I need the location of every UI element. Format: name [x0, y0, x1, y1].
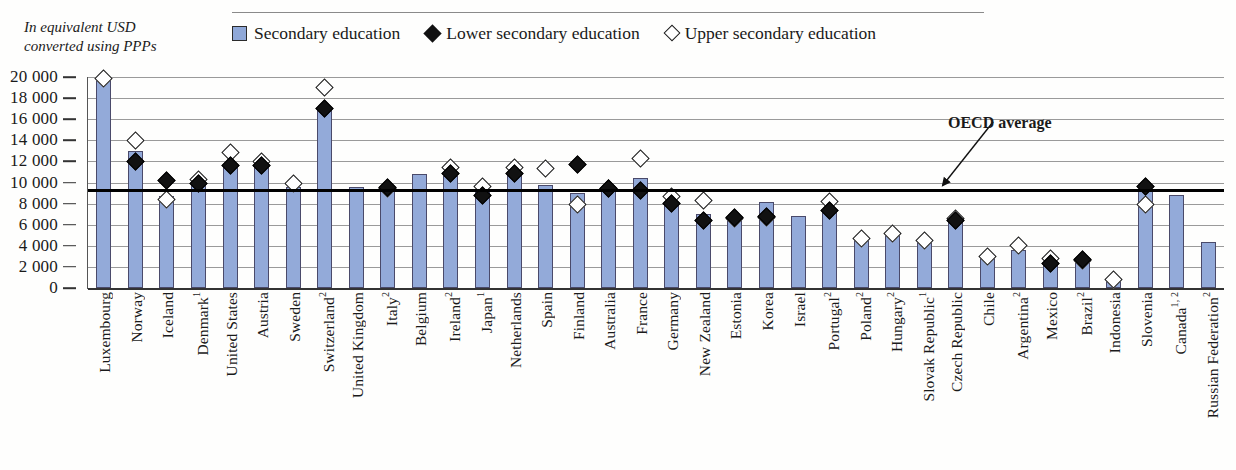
- bar-group[interactable]: [159, 77, 174, 288]
- bar[interactable]: [948, 220, 963, 288]
- bar-group[interactable]: [1106, 77, 1121, 288]
- bar-group[interactable]: [507, 77, 522, 288]
- bar-group[interactable]: [349, 77, 364, 288]
- bar-group[interactable]: [727, 77, 742, 288]
- bar-group[interactable]: [223, 77, 238, 288]
- bar[interactable]: [254, 167, 269, 288]
- open-diamond-icon: [663, 25, 680, 42]
- bar-group[interactable]: [917, 77, 932, 288]
- x-axis-label: Italy2: [380, 292, 395, 326]
- bar-group[interactable]: [664, 77, 679, 288]
- bar[interactable]: [191, 177, 206, 288]
- bar-group[interactable]: [380, 77, 395, 288]
- bar[interactable]: [128, 151, 143, 288]
- upper-secondary-marker[interactable]: [631, 149, 649, 167]
- bar[interactable]: [1011, 250, 1026, 288]
- legend-item-upper-secondary-education[interactable]: Upper secondary education: [666, 23, 876, 44]
- lower-secondary-marker[interactable]: [568, 155, 586, 173]
- y-axis-tick-label: 4 000: [19, 236, 58, 256]
- bar-group[interactable]: [1138, 77, 1153, 288]
- bar-group[interactable]: [254, 77, 269, 288]
- bar[interactable]: [727, 217, 742, 288]
- x-axis-label: Japan1: [475, 292, 490, 333]
- legend-label: Secondary education: [254, 23, 400, 44]
- x-axis-line: [88, 288, 1224, 290]
- bar-group[interactable]: [1201, 77, 1216, 288]
- bar-group[interactable]: [822, 77, 837, 288]
- x-axis-label: Switzerland2: [317, 292, 332, 372]
- bar[interactable]: [601, 191, 616, 288]
- x-axis-label: Belgium: [412, 292, 427, 346]
- bar[interactable]: [349, 187, 364, 288]
- bar-group[interactable]: [1169, 77, 1184, 288]
- bar-group[interactable]: [443, 77, 458, 288]
- x-axis-label: Israel: [791, 292, 806, 327]
- bar-group[interactable]: [1075, 77, 1090, 288]
- bar-group[interactable]: [412, 77, 427, 288]
- x-axis-label: France: [633, 292, 648, 335]
- legend-item-secondary-education[interactable]: Secondary education: [232, 23, 400, 44]
- bar-group[interactable]: [191, 77, 206, 288]
- bar-group[interactable]: [1043, 77, 1058, 288]
- y-axis-tick-mark: [63, 266, 76, 268]
- bar-group[interactable]: [570, 77, 585, 288]
- bar[interactable]: [1169, 195, 1184, 288]
- x-axis-label: Germany: [664, 292, 679, 350]
- x-axis-label: New Zealand: [696, 292, 711, 376]
- y-axis-tick-label: 12 000: [10, 151, 58, 171]
- bar[interactable]: [1201, 242, 1216, 288]
- bar-group[interactable]: [1011, 77, 1026, 288]
- bar[interactable]: [380, 191, 395, 288]
- bar-group[interactable]: [475, 77, 490, 288]
- upper-secondary-marker[interactable]: [694, 191, 712, 209]
- upper-secondary-marker[interactable]: [315, 78, 333, 96]
- axis-unit-note: In equivalent USD converted using PPPs: [24, 18, 174, 56]
- bar-group[interactable]: [885, 77, 900, 288]
- x-axis-label: Slovak Republic1: [917, 292, 932, 402]
- bar[interactable]: [822, 212, 837, 288]
- upper-secondary-marker[interactable]: [126, 131, 144, 149]
- y-axis-tick-label: 20 000: [10, 67, 58, 87]
- bar[interactable]: [223, 166, 238, 288]
- bar-group[interactable]: [854, 77, 869, 288]
- plot-area: [88, 77, 1224, 288]
- upper-secondary-marker[interactable]: [536, 160, 554, 178]
- bar[interactable]: [159, 196, 174, 288]
- bar-group[interactable]: [791, 77, 806, 288]
- y-axis-tick-label: 0: [49, 278, 58, 298]
- x-axis-label: Netherlands: [507, 292, 522, 368]
- x-axis-label: Ireland2: [443, 292, 458, 342]
- y-axis-tick-label: 18 000: [10, 88, 58, 108]
- bar[interactable]: [664, 204, 679, 288]
- x-axis-label: Czech Republic: [948, 292, 963, 392]
- x-axis-label: Sweden: [286, 292, 301, 342]
- legend-item-lower-secondary-education[interactable]: Lower secondary education: [426, 23, 639, 44]
- x-axis-label: Denmark1: [191, 292, 206, 355]
- bar-group[interactable]: [948, 77, 963, 288]
- bar[interactable]: [286, 187, 301, 288]
- bar-group[interactable]: [96, 77, 111, 288]
- bar-group[interactable]: [128, 77, 143, 288]
- bar-group[interactable]: [286, 77, 301, 288]
- x-axis-label: Poland2: [854, 292, 869, 341]
- x-axis-label: Indonesia: [1106, 292, 1121, 353]
- bar-group[interactable]: [317, 77, 332, 288]
- legend-label: Upper secondary education: [685, 23, 876, 44]
- lower-secondary-marker[interactable]: [158, 171, 176, 189]
- bar[interactable]: [885, 235, 900, 288]
- y-axis-tick-mark: [63, 118, 76, 120]
- bar-group[interactable]: [633, 77, 648, 288]
- bar[interactable]: [443, 176, 458, 288]
- x-axis-label: Chile: [980, 292, 995, 326]
- bar[interactable]: [791, 216, 806, 288]
- bar[interactable]: [96, 79, 111, 288]
- filled-diamond-icon: [424, 24, 442, 42]
- x-axis-label: Hungary2: [885, 292, 900, 352]
- bar[interactable]: [538, 185, 553, 288]
- bar[interactable]: [317, 108, 332, 288]
- bar-group[interactable]: [601, 77, 616, 288]
- bar-group[interactable]: [696, 77, 711, 288]
- bar-group[interactable]: [980, 77, 995, 288]
- bar-group[interactable]: [759, 77, 774, 288]
- bar-group[interactable]: [538, 77, 553, 288]
